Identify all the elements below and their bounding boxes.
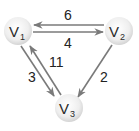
node-letter: V	[59, 100, 69, 117]
edge-v1-v2: 4	[33, 32, 103, 51]
node-subscript: 3	[70, 109, 75, 119]
edge-weight-v1-v2: 4	[64, 35, 72, 51]
edge-weight-v2-v1: 6	[64, 7, 72, 23]
node-v1: V 1	[4, 17, 32, 45]
node-v2: V 2	[105, 17, 133, 45]
node-letter: V	[109, 23, 119, 40]
edge-weight-v3-v1: 11	[49, 54, 64, 70]
edge-v2-v3: 2	[78, 45, 112, 97]
edge-v2-v1: 6	[34, 7, 104, 25]
directed-graph: 6 4 3 11 2 V 1 V 2 V 3	[0, 0, 139, 131]
node-v3: V 3	[55, 94, 83, 122]
node-letter: V	[9, 23, 19, 40]
node-subscript: 1	[20, 32, 25, 42]
edge-weight-v1-v3: 3	[28, 69, 36, 85]
edge-weight-v2-v3: 2	[100, 69, 108, 85]
node-subscript: 2	[120, 32, 125, 42]
